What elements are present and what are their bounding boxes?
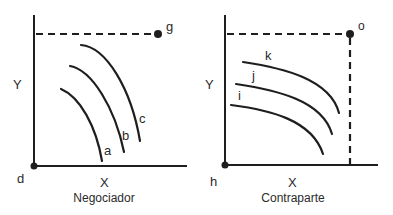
ideal-point-label-g: g: [166, 19, 173, 34]
curve-label-i: i: [238, 88, 241, 103]
curve-label-a: a: [104, 143, 112, 158]
curve-a: [61, 89, 102, 161]
x-axis-label-contraparte: X: [288, 175, 297, 190]
curve-i: [231, 105, 323, 154]
curve-label-b: b: [122, 128, 129, 143]
origin-point-d: [31, 163, 38, 170]
panel-title-contraparte: Contraparte: [261, 191, 325, 205]
curve-label-k: k: [265, 48, 272, 63]
curve-label-c: c: [139, 111, 146, 126]
panel-negociador: a b c g Y d X Negociador: [13, 15, 187, 205]
origin-point-h: [222, 162, 229, 169]
origin-label-d: d: [17, 171, 24, 186]
ideal-point-label-o: o: [358, 19, 365, 33]
origin-label-h: h: [210, 174, 217, 189]
curve-c: [81, 45, 140, 141]
panel-contraparte: i j k o Y h X Contraparte: [205, 15, 378, 205]
y-axis-label-contraparte: Y: [205, 77, 214, 92]
curve-label-j: j: [251, 68, 255, 83]
x-axis-label-negociador: X: [100, 175, 109, 190]
y-axis-label-negociador: Y: [13, 77, 22, 92]
panel-title-negociador: Negociador: [73, 191, 134, 205]
ideal-point-o: [346, 30, 354, 38]
ideal-point-g: [154, 30, 162, 38]
indifference-curves-diagram: a b c g Y d X Negociador i j k o Y h X C…: [0, 0, 393, 215]
